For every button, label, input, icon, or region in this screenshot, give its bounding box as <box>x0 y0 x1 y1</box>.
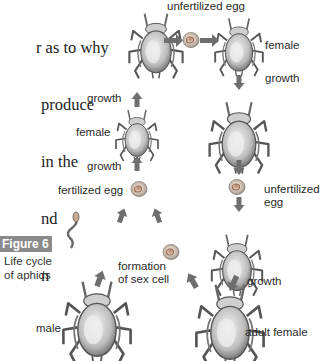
aphid-male <box>63 282 130 361</box>
label-female-left: female <box>76 126 111 139</box>
label-growth-left-mid: growth <box>87 160 122 173</box>
label-growth-right-bottom: growth <box>247 275 282 288</box>
label-line: unfertilized <box>264 183 320 196</box>
label-line: formation <box>118 260 169 273</box>
label-formation-of-sex-cell: formation of sex cell <box>118 260 169 286</box>
aphid-female-top-right <box>215 18 263 76</box>
label-line: of sex cell <box>118 273 169 286</box>
arrow-diag <box>149 207 164 225</box>
aphid-top-left <box>129 14 182 79</box>
arrow-down <box>234 197 245 212</box>
label-fertilized-egg: fertilized egg <box>58 184 123 197</box>
aphid-life-cycle-diagram <box>0 0 320 361</box>
egg-unfertilized-top <box>183 33 199 48</box>
label-unfertilized-egg-right: unfertilized egg <box>264 183 320 209</box>
label-male: male <box>36 322 61 335</box>
aphid-adult-female <box>196 285 263 361</box>
arrow-up <box>132 156 143 171</box>
label-unfertilized-egg-top: unfertilized egg <box>167 0 245 13</box>
label-adult-female: adult female <box>245 326 308 339</box>
arrow-up <box>132 92 143 107</box>
egg-unfertilized-right <box>229 180 245 195</box>
aphid-female-left <box>116 110 158 161</box>
sperm-cell-icon <box>68 218 77 248</box>
label-growth-right-top: growth <box>265 72 300 85</box>
arrow-down <box>234 75 245 90</box>
egg-fertilized <box>131 182 147 197</box>
label-growth-left-top: growth <box>87 92 122 105</box>
label-female-right: female <box>265 39 300 52</box>
arrow-diag <box>91 269 108 289</box>
arrow-diag <box>183 270 202 290</box>
arrow-diag <box>114 207 129 225</box>
egg-sex-cell <box>163 245 179 260</box>
label-line: egg <box>264 196 320 209</box>
